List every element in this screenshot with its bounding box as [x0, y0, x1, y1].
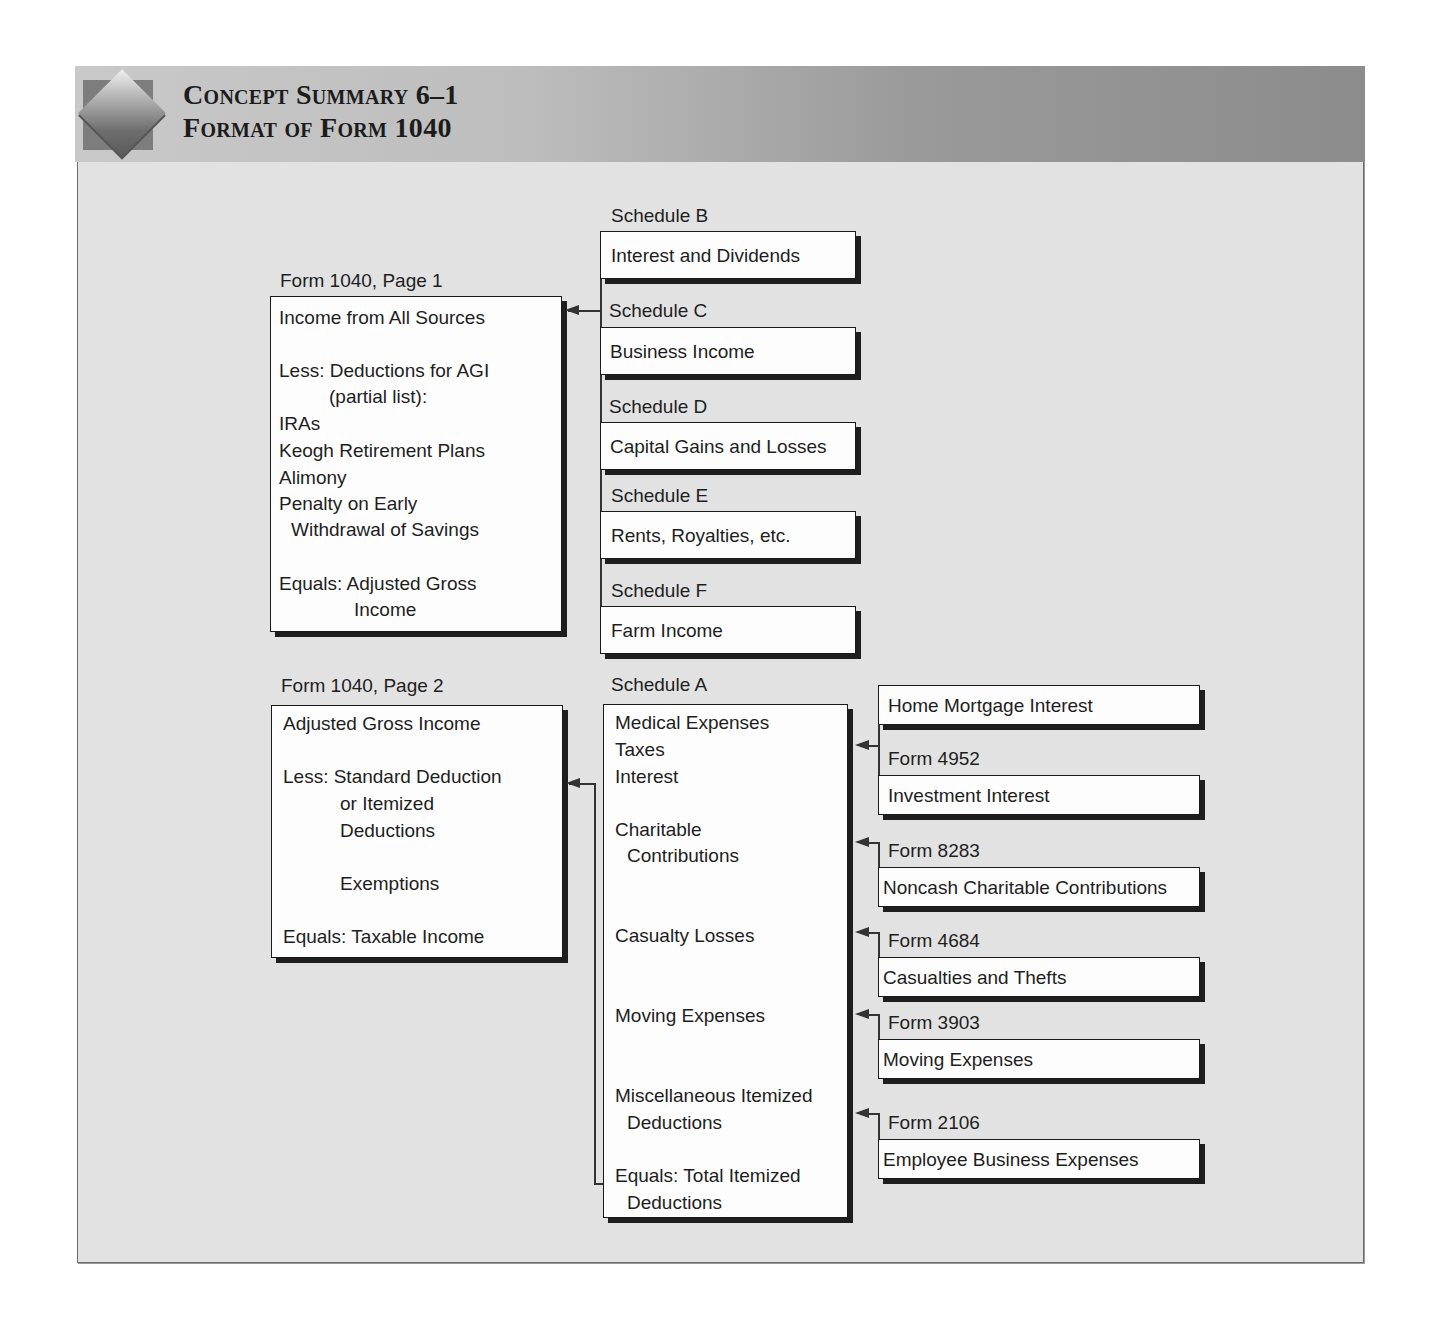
page1-line: Income from All Sources — [279, 307, 485, 329]
form-3903-connector — [878, 1014, 880, 1040]
arrow-left-icon — [855, 1108, 869, 1118]
schedule-a-line: Deductions — [627, 1192, 722, 1214]
schedule-a-total-stub — [594, 1183, 603, 1185]
form-8283-label: Form 8283 — [888, 840, 980, 862]
schedule-f-content: Farm Income — [611, 620, 723, 642]
schedule-a-label: Schedule A — [611, 674, 707, 696]
page2-line: Less: Standard Deduction — [283, 766, 502, 788]
schedule-f-label: Schedule F — [611, 580, 707, 602]
schedule-c-content: Business Income — [610, 341, 755, 363]
schedule-a-line: Contributions — [627, 845, 739, 867]
title-line-1: Concept Summary 6–1 — [183, 78, 459, 111]
page2-line: Adjusted Gross Income — [283, 713, 480, 735]
arrow-left-icon — [855, 1009, 869, 1019]
arrow-left-icon — [565, 305, 579, 315]
schedule-b-label: Schedule B — [611, 205, 708, 227]
page1-line: Withdrawal of Savings — [291, 519, 479, 541]
schedule-a-line: Charitable — [615, 819, 702, 841]
schedule-c-label: Schedule C — [609, 300, 707, 322]
form-8283-connector — [878, 842, 880, 868]
schedule-b-content: Interest and Dividends — [611, 245, 800, 267]
schedule-d-box: Capital Gains and Losses — [600, 422, 856, 470]
page1-line: Equals: Adjusted Gross — [279, 573, 477, 595]
moving-expenses-content: Moving Expenses — [883, 1049, 1033, 1071]
casualties-thefts-box: Casualties and Thefts — [878, 957, 1200, 997]
schedule-a-line: Medical Expenses — [615, 712, 769, 734]
investment-interest-content: Investment Interest — [888, 785, 1050, 807]
schedule-f-box: Farm Income — [600, 606, 856, 654]
form1040-page2-box: Adjusted Gross Income Less: Standard Ded… — [271, 705, 563, 958]
schedule-d-label: Schedule D — [609, 396, 707, 418]
arrow-left-icon — [855, 837, 869, 847]
page1-line: (partial list): — [329, 386, 427, 408]
page2-line: Deductions — [340, 820, 435, 842]
interest-group-connector — [878, 724, 880, 776]
casualties-thefts-content: Casualties and Thefts — [883, 967, 1066, 989]
page2-label: Form 1040, Page 2 — [281, 675, 444, 697]
page2-line: Equals: Taxable Income — [283, 926, 484, 948]
schedule-a-line: Deductions — [627, 1112, 722, 1134]
schedule-a-total-connector — [594, 783, 596, 1184]
schedule-a-line: Taxes — [615, 739, 665, 761]
page1-label: Form 1040, Page 1 — [280, 270, 443, 292]
page1-line: Less: Deductions for AGI — [279, 360, 489, 382]
title-line-2: Format of Form 1040 — [183, 111, 459, 144]
page1-line: Penalty on Early — [279, 493, 417, 515]
arrow-left-icon — [855, 740, 869, 750]
form-3903-label: Form 3903 — [888, 1012, 980, 1034]
investment-interest-box: Investment Interest — [878, 775, 1200, 815]
form-4684-label: Form 4684 — [888, 930, 980, 952]
employee-business-expenses-content: Employee Business Expenses — [883, 1149, 1139, 1171]
form-2106-label: Form 2106 — [888, 1112, 980, 1134]
form-2106-connector — [878, 1113, 880, 1140]
form1040-page1-box: Income from All Sources Less: Deductions… — [270, 296, 562, 632]
schedule-c-box: Business Income — [600, 327, 856, 375]
page1-line: Alimony — [279, 467, 347, 489]
diamond-logo-icon — [75, 66, 169, 162]
schedule-a-line: Equals: Total Itemized — [615, 1165, 801, 1187]
form-4684-connector — [878, 932, 880, 958]
moving-expenses-box: Moving Expenses — [878, 1039, 1200, 1079]
schedule-b-box: Interest and Dividends — [600, 231, 856, 279]
noncash-charitable-box: Noncash Charitable Contributions — [878, 867, 1200, 907]
page2-line: or Itemized — [340, 793, 434, 815]
page2-line: Exemptions — [340, 873, 439, 895]
schedule-a-line: Casualty Losses — [615, 925, 754, 947]
page-title: Concept Summary 6–1 Format of Form 1040 — [183, 78, 459, 144]
schedule-a-line: Miscellaneous Itemized — [615, 1085, 812, 1107]
noncash-charitable-content: Noncash Charitable Contributions — [883, 877, 1167, 899]
schedule-e-box: Rents, Royalties, etc. — [600, 511, 856, 559]
schedule-a-box: Medical Expenses Taxes Interest Charitab… — [603, 704, 848, 1218]
home-mortgage-interest-content: Home Mortgage Interest — [888, 695, 1093, 717]
home-mortgage-interest-box: Home Mortgage Interest — [878, 685, 1200, 725]
schedule-a-line: Moving Expenses — [615, 1005, 765, 1027]
page1-line: IRAs — [279, 413, 320, 435]
schedule-d-content: Capital Gains and Losses — [610, 436, 827, 458]
schedule-e-content: Rents, Royalties, etc. — [611, 525, 791, 547]
schedule-e-label: Schedule E — [611, 485, 708, 507]
page1-line: Income — [354, 599, 416, 621]
arrow-left-icon — [855, 927, 869, 937]
page1-line: Keogh Retirement Plans — [279, 440, 485, 462]
arrow-left-icon — [566, 778, 580, 788]
schedule-a-line: Interest — [615, 766, 678, 788]
employee-business-expenses-box: Employee Business Expenses — [878, 1139, 1200, 1179]
form-4952-label: Form 4952 — [888, 748, 980, 770]
